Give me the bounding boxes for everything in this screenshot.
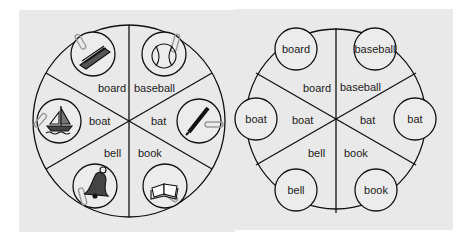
word-card-bat: bat (407, 113, 422, 125)
right-label-book: book (344, 147, 368, 159)
word-wheels-diagram: board baseball boat bat bell book (0, 0, 469, 240)
word-card-book: book (364, 184, 388, 196)
left-label-baseball: baseball (134, 82, 175, 94)
left-label-bat: bat (151, 115, 166, 127)
right-label-bat: bat (360, 114, 375, 126)
left-label-board: board (98, 82, 126, 94)
left-label-boat: boat (89, 115, 110, 127)
right-label-board: board (303, 82, 331, 94)
right-label-bell: bell (308, 147, 325, 159)
right-label-baseball: baseball (340, 81, 381, 93)
right-label-boat: boat (292, 114, 313, 126)
left-label-book: book (138, 147, 162, 159)
word-card-bell: bell (287, 184, 304, 196)
word-card-boat: boat (245, 113, 266, 125)
word-card-baseball: baseball (355, 43, 396, 55)
left-label-bell: bell (104, 147, 121, 159)
word-card-board: board (282, 43, 310, 55)
